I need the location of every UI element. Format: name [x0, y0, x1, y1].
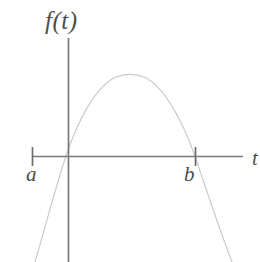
lower-bound-label: a	[26, 164, 37, 185]
x-axis-label: t	[252, 148, 258, 169]
figure-canvas	[0, 0, 260, 262]
function-label: f(t)	[45, 8, 78, 33]
parabola-curve	[35, 74, 232, 262]
calculus-figure: f(t) a b t	[0, 0, 260, 262]
upper-bound-label: b	[184, 164, 195, 185]
